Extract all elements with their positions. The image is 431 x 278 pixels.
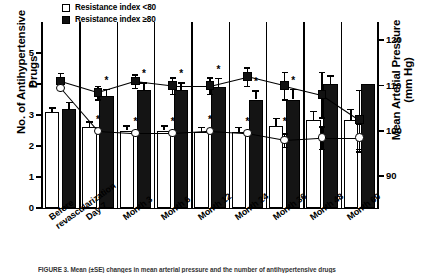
legend-item-open: Resistance index <80 [62,2,156,13]
error-bar-cap [95,86,101,87]
map-filled-square-marker [280,81,289,90]
line-segment [322,138,359,139]
map-filled-square-marker [131,77,140,86]
error-bar-cap [132,88,138,89]
group-separator [191,22,192,208]
group-separator [341,22,342,208]
error-bar-cap [58,73,64,74]
group-separator [154,22,155,208]
error-bar-cap [178,82,185,83]
error-bar-cap [327,75,334,76]
error-bar-cap [347,109,354,110]
line-segment [173,86,210,87]
map-open-circle-marker [355,133,364,142]
left-tick-mark [36,83,41,85]
error-bar-cap [95,99,101,100]
right-tick-mark [379,130,384,132]
error-bar-cap [310,111,317,112]
error-bar-cap [282,147,288,148]
significance-marker: * [280,119,290,125]
significance-marker: * [176,71,186,77]
error-bar-cap [170,77,176,78]
left-tick-mark [36,114,41,116]
bar-open [45,112,60,208]
bar-open [232,132,247,208]
bar-filled [286,100,301,209]
map-open-circle-marker [318,133,327,142]
error-bar-cap [319,72,325,73]
right-tick-label: 90 [386,170,408,181]
group-separator [303,22,304,208]
significance-marker: * [242,119,252,125]
group-separator [266,22,267,208]
error-bar-cap [207,77,213,78]
map-filled-square-marker [318,90,327,99]
group-separator [229,22,230,208]
error-bar-cap [244,86,250,87]
right-tick-label: 100 [386,125,408,136]
left-tick-label: 5 [20,47,34,58]
right-tick-label: 120 [386,34,408,45]
error-bar-cap [235,127,242,128]
left-tick-mark [36,176,41,178]
significance-marker: * [214,67,224,73]
left-tick-label: 0 [20,202,34,213]
error-bar-cap [282,99,288,100]
map-filled-square-marker [168,81,177,90]
right-tick-mark [379,175,384,177]
map-open-circle-marker [280,136,289,145]
error-bar-cap [273,118,280,119]
error-bar-cap [319,117,325,118]
error-bar-cap [207,94,213,95]
bar-open [157,131,172,209]
line-segment [135,133,172,134]
error-bar-cap [161,125,168,126]
map-open-circle-marker [131,129,140,138]
left-tick-label: 1 [20,171,34,182]
right-tick-label: 110 [386,80,408,91]
error-bar-cap [123,125,130,126]
significance-marker: * [93,117,103,123]
significance-marker: * [102,78,112,84]
error-bar-cap [356,90,362,91]
significance-marker: * [168,119,178,125]
left-tick-mark [36,145,41,147]
bar-filled [323,84,338,208]
left-tick-label: 2 [20,140,34,151]
map-filled-square-marker [355,115,364,124]
left-tick-label: 3 [20,109,34,120]
map-filled-square-marker [243,72,252,81]
error-bar-cap [198,127,205,128]
bar-open [120,131,135,209]
error-bar [255,90,256,99]
error-bar-cap [282,72,288,73]
bar-filled [211,87,226,208]
map-filled-square-marker [94,88,103,97]
map-open-circle-marker [56,84,65,93]
error-bar-cap [244,67,250,68]
group-separator [79,22,80,208]
error-bar [292,89,293,100]
bar-filled [361,84,376,208]
error-bar [218,78,219,87]
error-bar-cap [215,78,222,79]
bar-filled [174,90,189,208]
figure-root: Resistance index <80 Resistance index ≥8… [0,0,431,278]
error-bar-cap [319,126,325,127]
significance-marker: * [139,71,149,77]
map-filled-square-marker [206,81,215,90]
error-bar-cap [49,107,56,108]
left-tick-mark [36,207,41,209]
significance-marker: * [288,78,298,84]
bar-open [194,132,209,208]
significance-marker: * [130,119,140,125]
bar-filled [137,90,152,208]
map-open-circle-marker [243,129,252,138]
left-tick-mark [36,52,41,54]
error-bar-cap [356,151,362,152]
error-bar-cap [132,74,138,75]
legend-open-square-icon [62,4,70,12]
error-bar-cap [319,149,325,150]
significance-marker: * [205,117,215,123]
error-bar-cap [170,94,176,95]
